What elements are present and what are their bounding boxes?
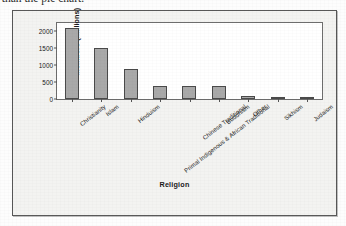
bar [65, 28, 79, 99]
x-tick-mark [160, 99, 161, 102]
x-axis-title: Religion [13, 180, 336, 189]
x-tick-mark [278, 99, 279, 102]
bar-slot [175, 23, 204, 99]
figure-container: Members (millions) 0500100015002000 Chri… [12, 10, 337, 216]
x-category-label: Christianity [78, 103, 107, 127]
x-tick-mark [248, 99, 249, 102]
bar [94, 48, 108, 99]
x-tick-mark [190, 99, 191, 102]
bar [153, 86, 167, 100]
plot-area: Members (millions) 0500100015002000 [56, 22, 323, 100]
x-category-label: Judaism [312, 103, 334, 123]
x-category-label: Islam [104, 103, 120, 118]
bar-series [57, 23, 322, 99]
bar-slot [57, 23, 86, 99]
x-tick-mark [131, 99, 132, 102]
bar [212, 86, 226, 99]
bar-slot [204, 23, 233, 99]
bar-slot [263, 23, 292, 99]
x-tick-mark [219, 99, 220, 102]
bar-slot [234, 23, 263, 99]
x-category-label: Hinduism [136, 103, 161, 124]
bar-slot [116, 23, 145, 99]
bar [124, 69, 138, 99]
bar-slot [145, 23, 174, 99]
x-tick-mark [307, 99, 308, 102]
caption-line: ve than the pie chart. [0, 0, 346, 8]
bar-slot [86, 23, 115, 99]
x-category-label: Sikhism [282, 103, 303, 122]
x-tick-mark [72, 99, 73, 102]
bar-slot [293, 23, 322, 99]
screenshot-root: ve than the pie chart. Members (millions… [0, 0, 346, 226]
bar [182, 86, 196, 99]
